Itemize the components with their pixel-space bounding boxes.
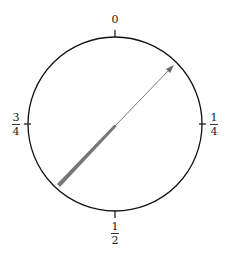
label-quarter-num: 1 — [211, 112, 218, 123]
label-quarter-den: 4 — [211, 126, 218, 137]
label-half: 1 2 — [109, 221, 121, 246]
arrow-shaft-thin — [115, 69, 170, 126]
phase-diagram — [0, 0, 229, 257]
label-half-den: 2 — [112, 235, 119, 246]
label-zero: 0 — [109, 14, 121, 25]
center-dot — [114, 125, 117, 128]
label-three-quarters: 3 4 — [10, 112, 22, 137]
label-half-num: 1 — [112, 221, 119, 232]
phase-circle — [28, 37, 202, 211]
arrow-shaft-thick — [57, 125, 116, 187]
label-three-quarters-den: 4 — [13, 126, 20, 137]
label-three-quarters-num: 3 — [13, 112, 20, 123]
label-quarter: 1 4 — [208, 112, 220, 137]
